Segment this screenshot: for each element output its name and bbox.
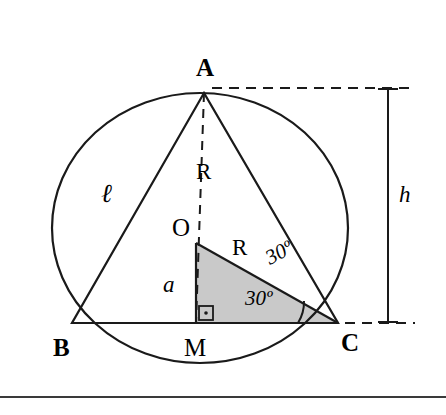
segment-label-r-lower: R	[232, 236, 247, 259]
segment-label-l: ℓ	[101, 181, 112, 207]
segment-label-r-upper: R	[196, 160, 211, 183]
figure-canvas: A B C O M ℓ R R a h 30º 30º	[0, 0, 446, 415]
vertex-label-m: M	[184, 335, 206, 360]
dimension-label-h: h	[399, 183, 411, 206]
vertex-label-o: O	[172, 215, 190, 240]
height-dimension-bracket	[378, 88, 398, 323]
segment-label-a: a	[163, 273, 175, 296]
page-divider	[0, 396, 446, 398]
vertex-label-c: C	[341, 330, 359, 355]
vertex-label-b: B	[53, 335, 70, 360]
vertex-label-a: A	[196, 55, 214, 80]
angle-label-lower-30: 30º	[245, 288, 273, 309]
